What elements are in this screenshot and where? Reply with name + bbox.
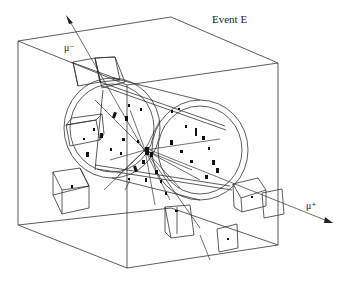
detector-module-lower-left (53, 168, 89, 214)
mu-minus-label: μ⁻ (64, 42, 75, 53)
event-display: Event E μ⁻ μ⁺ (0, 0, 342, 283)
muon-chamber-right (233, 178, 284, 218)
event-title: Event E (212, 13, 247, 25)
detector-module-bottom (165, 205, 194, 238)
muon-chamber-top (71, 57, 125, 88)
mu-minus-arrowhead (66, 15, 73, 24)
mu-plus-arrowhead (324, 217, 333, 223)
detector-wireframe (0, 0, 342, 283)
tracks (68, 18, 330, 260)
cylinder-detector (64, 78, 248, 200)
outer-box (18, 17, 278, 268)
mu-plus-label: μ⁺ (306, 200, 317, 211)
hits (71, 104, 253, 240)
arrowheads (66, 15, 333, 223)
